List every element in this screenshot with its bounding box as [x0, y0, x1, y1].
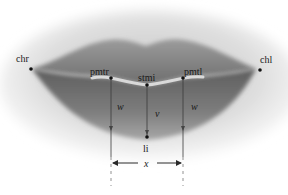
landmark-chl-label: chl	[260, 54, 272, 65]
measurement-w-left-label: w	[117, 101, 124, 112]
measurement-x-label: x	[143, 158, 149, 169]
landmark-li-dot	[145, 135, 149, 139]
landmark-pmtr-label: pmtr	[90, 66, 110, 77]
landmark-li-label: li	[143, 143, 149, 154]
measurement-v-label: v	[155, 108, 160, 119]
landmark-stmi-label: stmi	[138, 72, 155, 83]
landmark-chr-dot	[29, 67, 33, 71]
lip-diagram: chr pmtr stmi pmtl chl li w v w x	[0, 0, 288, 195]
measurement-w-right-label: w	[191, 101, 198, 112]
landmark-stmi-dot	[145, 83, 149, 87]
landmark-pmtl-label: pmtl	[184, 66, 203, 77]
landmark-pmtr-dot	[109, 76, 113, 80]
landmark-chl-dot	[258, 68, 262, 72]
landmark-chr-label: chr	[16, 53, 29, 64]
